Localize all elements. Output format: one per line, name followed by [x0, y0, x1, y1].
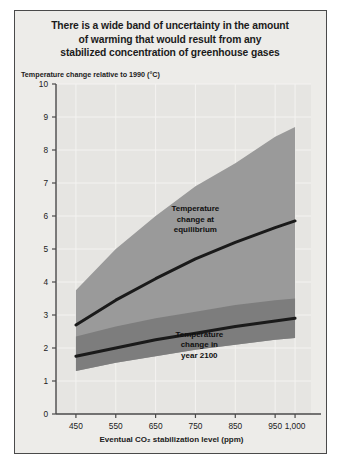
x-axis-tick-label: 850: [228, 421, 242, 431]
x-axis-tick-label: 650: [149, 421, 163, 431]
annotation-year-2100-line-1: Temperature: [175, 330, 223, 341]
y-axis-tick-label: 0: [28, 409, 48, 419]
annotation-equilibrium-line-1: Temperature: [171, 204, 219, 215]
y-axis-tick-label: 3: [28, 310, 48, 320]
x-axis-label: Eventual CO₂ stabilization level (ppm): [15, 435, 328, 444]
y-axis-tick-label: 4: [28, 277, 48, 287]
x-axis-tick-label: 750: [189, 421, 203, 431]
x-axis-tick-label: 550: [109, 421, 123, 431]
y-axis-tick-label: 1: [28, 376, 48, 386]
x-axis-tick-label: 1,000: [285, 421, 306, 431]
y-axis-tick-label: 2: [28, 343, 48, 353]
annotation-year-2100-line-3: year 2100: [175, 351, 223, 362]
annotation-equilibrium: Temperature change at equilibrium: [171, 204, 219, 236]
y-axis-tick-label: 7: [28, 178, 48, 188]
y-axis-tick-label: 10: [28, 79, 48, 89]
x-axis-tick-label: 450: [69, 421, 83, 431]
annotation-year-2100-line-2: change in: [175, 340, 223, 351]
y-axis-tick-label: 6: [28, 211, 48, 221]
annotation-equilibrium-line-3: equilibrium: [171, 225, 219, 236]
y-axis-tick-label: 5: [28, 244, 48, 254]
x-axis-tick-label: 950: [268, 421, 282, 431]
annotation-equilibrium-line-2: change at: [171, 215, 219, 226]
y-axis-tick-label: 9: [28, 112, 48, 122]
chart-figure: There is a wide band of uncertainty in t…: [14, 10, 327, 454]
annotation-year-2100: Temperature change in year 2100: [175, 330, 223, 362]
y-axis-tick-label: 8: [28, 145, 48, 155]
